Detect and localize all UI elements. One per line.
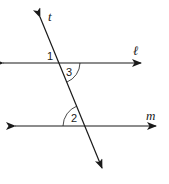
label-t: t	[48, 9, 52, 24]
angle-1-label: 1	[47, 50, 53, 62]
transversal-t	[40, 17, 102, 168]
angle-2-label: 2	[71, 112, 77, 124]
angle-3-label: 3	[66, 66, 72, 78]
geometry-diagram: t ℓ m 1 3 2	[0, 0, 169, 184]
label-m: m	[146, 108, 155, 123]
label-l: ℓ	[133, 43, 139, 58]
